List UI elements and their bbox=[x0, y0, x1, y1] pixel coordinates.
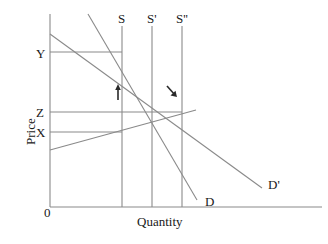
demand-label-d: D bbox=[205, 195, 214, 208]
supply-label-s-double-prime: S'' bbox=[176, 12, 188, 25]
demand-label-d-prime: D' bbox=[268, 178, 280, 191]
supply-label-s: S bbox=[118, 12, 125, 25]
price-label-y: Y bbox=[36, 47, 45, 60]
demand-shift-arrow-icon bbox=[167, 86, 177, 97]
supply-label-s-prime: S' bbox=[147, 12, 157, 25]
demand-curve-d bbox=[88, 14, 197, 200]
axis-origin-label: 0 bbox=[44, 206, 51, 219]
x-axis-label: Quantity bbox=[137, 215, 183, 228]
price-rise-arrow-icon bbox=[115, 84, 121, 100]
price-label-z: Z bbox=[36, 106, 44, 119]
price-label-x: X bbox=[36, 126, 45, 139]
supply-curve bbox=[50, 110, 196, 150]
demand-curve-d-prime bbox=[50, 34, 262, 188]
supply-demand-diagram: 0 Quantity Price Y Z X S S' S'' D D' bbox=[0, 0, 328, 244]
